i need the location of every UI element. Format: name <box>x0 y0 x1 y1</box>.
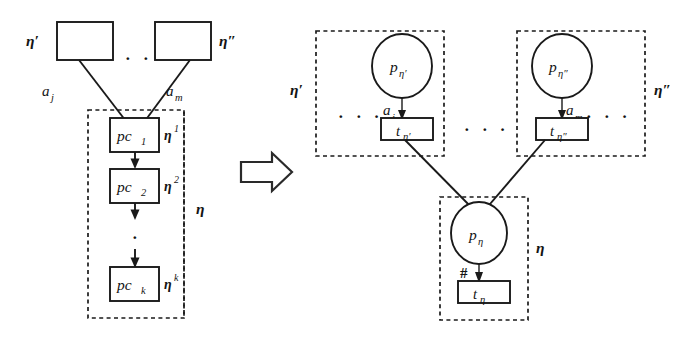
right-group-eta: η p η # t η <box>440 197 545 320</box>
left-node-pck-sub: k <box>141 285 146 296</box>
right-group-eta-dprime-label: η″ <box>654 81 671 98</box>
right-transition-t-eta-dprime-sub: η″ <box>557 131 567 142</box>
right-place-p-eta-dprime <box>532 34 592 98</box>
left-edge-pc2-down-arrowhead <box>131 210 140 221</box>
left-group-eta-label: η <box>196 200 205 217</box>
left-node-pc1-sub: 1 <box>141 136 146 147</box>
right-place-p-eta-prime-sub: η′ <box>399 68 407 79</box>
right-arc-eta-dprime-label-base: a <box>566 102 574 118</box>
left-node-pc2-side-eta: η <box>164 179 172 194</box>
diagram-canvas: η′ · · · η″ a j a m <box>0 0 695 337</box>
left-node-pc2-label: pc <box>116 178 132 195</box>
left-vertical-ellipsis: · <box>132 228 142 247</box>
right-place-p-eta-dprime-sub: η″ <box>558 68 568 79</box>
right-arc-eta-prime-label-base: a <box>383 102 391 118</box>
right-place-p-eta-sub: η <box>478 236 483 247</box>
transformation-arrow <box>241 153 292 191</box>
left-arc-label-a-m-base: a <box>166 83 174 99</box>
left-node-pck-side-eta-sup: k <box>174 272 179 283</box>
left-arc-label-a-m: a m <box>166 83 183 103</box>
right-group-eta-prime-leading-dots: · · · <box>338 107 384 126</box>
left-node-pc1-label: pc <box>116 127 132 144</box>
left-eta-dprime-label: η″ <box>219 32 236 49</box>
left-eta-prime-label: η′ <box>26 32 39 49</box>
right-middle-ellipsis: · · · <box>464 120 510 139</box>
left-top-box-eta-dprime <box>155 22 211 60</box>
right-transition-t-eta-sub: η <box>480 294 485 305</box>
left-node-pc2-side-eta-sup: 2 <box>174 174 179 185</box>
left-diagram: η′ · · · η″ a j a m <box>26 22 236 318</box>
right-arc-from-t-eta-dprime <box>484 140 545 211</box>
left-top-box-eta-prime <box>57 22 113 60</box>
right-group-eta-prime: η′ · · · p η′ a j t η′ <box>290 31 444 156</box>
right-arc-from-t-eta-prime <box>405 140 475 211</box>
right-place-p-eta <box>451 202 507 264</box>
left-arc-label-a-j-sub: j <box>49 92 54 103</box>
right-group-eta-dprime-trailing-dots: · · · <box>586 107 632 126</box>
left-node-pc1-side-eta: η <box>164 128 172 143</box>
right-diagram: η′ · · · p η′ a j t η′ · · · <box>290 31 671 320</box>
right-group-eta-prime-label: η′ <box>290 81 303 98</box>
left-node-pc2-sub: 2 <box>141 187 147 198</box>
left-arc-label-a-m-sub: m <box>175 92 183 103</box>
left-arc-label-a-j: a j <box>42 83 54 103</box>
left-node-pck-label: pc <box>116 276 132 293</box>
right-place-p-eta-dprime-label: p <box>548 58 557 75</box>
left-arc-label-a-j-base: a <box>42 83 50 99</box>
right-transition-t-eta-prime-sub: η′ <box>403 131 411 142</box>
right-group-eta-dprime: η″ p η″ a m · · · t η″ <box>517 31 671 156</box>
left-node-pc1-side-eta-sup: 1 <box>174 123 179 134</box>
right-arc-eta-label-hash: # <box>460 265 468 281</box>
block-arrow-right-icon <box>241 153 292 191</box>
left-node-pck-side-eta: η <box>164 277 172 292</box>
left-edge-pc1-pc2-arrowhead <box>131 159 140 170</box>
right-place-p-eta-prime-label: p <box>389 58 398 75</box>
right-group-eta-label: η <box>536 239 545 256</box>
right-place-p-eta-prime <box>372 34 432 98</box>
right-place-p-eta-label: p <box>468 226 477 243</box>
figure-root: η′ · · · η″ a j a m <box>0 0 695 337</box>
